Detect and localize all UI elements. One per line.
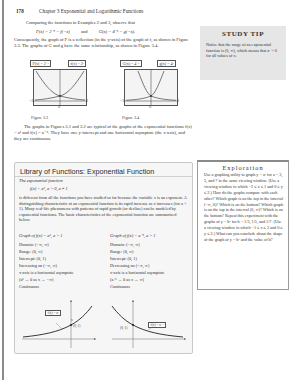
page-number: 178 [16, 8, 24, 14]
exploration-title: Exploration [198, 164, 288, 171]
page-margin-rule [2, 0, 4, 380]
exploration-text: Use a graphing utility to graph y = aˣ f… [198, 171, 288, 243]
left-asymptote: x-axis is a horizontal asymptote [19, 269, 74, 276]
figure-3-3-graph [33, 69, 87, 106]
left-increasing: Increasing on (−∞, ∞) [19, 262, 74, 269]
after-figures-paragraph: The graphs in Figures 3.1 and 3.2 are ty… [14, 124, 194, 142]
library-paragraph: is different from all the functions you … [19, 195, 187, 223]
right-domain: Domain: (−∞, ∞) [110, 241, 165, 248]
figure-3-4-graph [124, 69, 178, 106]
right-point-label: (0, 1) [120, 326, 127, 330]
increasing-exponential-graph [18, 298, 100, 348]
right-graph-function-label: f(x) = a⁻ˣ [148, 322, 166, 328]
right-range: Range: (0, ∞) [110, 248, 165, 255]
right-asymptote: x-axis is a horizontal asymptote [110, 269, 165, 276]
study-tip-title: STUDY TIP [200, 30, 286, 38]
left-domain: Domain: (−∞, ∞) [19, 241, 74, 248]
right-intercept: Intercept: (0, 1) [110, 255, 165, 262]
running-header: 178 Chapter 3 Exponential and Logarithmi… [16, 8, 143, 14]
right-col-heading: Graph of f(x) = a⁻ˣ, a > 1 [110, 233, 156, 238]
left-point-label: (0, 1) [73, 324, 80, 328]
left-col-heading: Graph of f(x) = aˣ, a > 1 [19, 233, 63, 238]
right-decreasing: Decreasing on (−∞, ∞) [110, 262, 165, 269]
intro-paragraph: Consequently, the graph of F is a reflec… [14, 37, 194, 49]
library-equation: f(x) = aˣ, a > 0, a ≠ 1 [30, 186, 68, 191]
chapter-title: Chapter 3 Exponential and Logarithmic Fu… [39, 8, 143, 14]
figure-3-3-label-f: f(x) = 2ˣ [68, 60, 86, 67]
figure-3-3-label-F: F(x) = 2⁻ˣ [30, 60, 51, 67]
intro-line: Comparing the functions in Examples 2 an… [26, 20, 196, 26]
left-range: Range: (0, ∞) [19, 248, 74, 255]
right-limit: (a⁻ˣ → 0 as x → ∞) [110, 276, 165, 283]
left-col-list: Domain: (−∞, ∞) Range: (0, ∞) Intercept:… [19, 241, 74, 290]
left-graph-function-label: f(x) = aˣ [45, 310, 61, 316]
library-title: Library of Functions: Exponential Functi… [15, 163, 192, 176]
figure-3-4-label-g: g(x) = 4ˣ [157, 60, 176, 67]
equation-F: F(x) = 2⁻ˣ = f(−x) [36, 29, 70, 34]
right-col-list: Domain: (−∞, ∞) Range: (0, ∞) Intercept:… [110, 241, 165, 290]
exploration-box: Exploration Use a graphing utility to gr… [197, 160, 289, 290]
figure-3-3-tick-right: 3 [86, 98, 88, 103]
equation-row: F(x) = 2⁻ˣ = f(−x) and G(x) = 4⁻ˣ = g(−x… [36, 29, 135, 34]
figure-3-3-plot [34, 70, 86, 105]
equation-G: G(x) = 4⁻ˣ = g(−x). [99, 29, 135, 34]
figure-3-4-tick-right: 3 [177, 98, 179, 103]
left-continuous: Continuous [19, 283, 74, 290]
figure-3-4-plot [125, 70, 177, 105]
left-limit: (aˣ → 0 as x → −∞) [19, 276, 74, 283]
equation-and: and [81, 29, 88, 34]
study-tip-box: STUDY TIP Notice that the range of an ex… [200, 26, 286, 80]
figure-3-4-tick-left: −3 [120, 98, 124, 103]
figure-3-3-caption: Figure 3.3 [31, 115, 48, 120]
figure-3-3-tick-bottom: 0 [58, 104, 60, 109]
left-intercept: Intercept: (0, 1) [19, 255, 74, 262]
library-header: Library of Functions: Exponential Functi… [15, 163, 192, 177]
study-tip-text: Notice that the range of an exponential … [200, 38, 286, 59]
left-axis-x-label: x [71, 318, 73, 322]
figure-3-4-caption: Figure 3.4 [122, 115, 139, 120]
figure-3-4-label-G: G(x) = 4⁻ˣ [120, 60, 142, 67]
right-continuous: Continuous [110, 283, 165, 290]
library-subtitle: The exponential function [19, 178, 63, 183]
figure-3-3-tick-left: −3 [29, 98, 33, 103]
figure-3-4-tick-bottom: 0 [149, 104, 151, 109]
